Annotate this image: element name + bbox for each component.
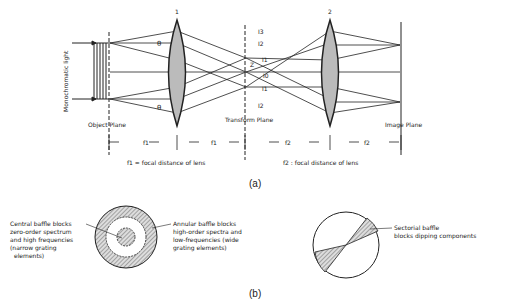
central-baffle-text: Central baffle blocks zero-order spectru… (10, 220, 73, 259)
lens-1-label: 1 (175, 8, 179, 15)
theta-top: θ (157, 40, 161, 48)
order-i1-bottom: I1 (262, 85, 268, 92)
order-i0: I0 (263, 72, 269, 79)
svg-text:blocks dipping components: blocks dipping components (394, 232, 476, 240)
object-plane-label: Object Plane (88, 121, 126, 129)
svg-text:low-frequencies (wide: low-frequencies (wide (173, 236, 239, 244)
distance-f2-b: f2 (364, 139, 370, 146)
order-i3: I3 (258, 28, 264, 35)
order-i2-top: I2 (258, 40, 264, 47)
transform-plane-label: Transform Plane (224, 116, 274, 123)
lens-1 (169, 20, 186, 126)
distance-f1-b: f1 (211, 139, 217, 146)
light-source (72, 41, 110, 101)
svg-text:zero-order spectrum: zero-order spectrum (10, 228, 72, 236)
svg-text:Annular baffle blocks: Annular baffle blocks (173, 220, 236, 227)
order-i1-top: I1 (262, 56, 268, 63)
sectorial-baffle-text: Sectorial baffle blocks dipping componen… (394, 224, 476, 240)
legend-f2: f2 : focal distance of lens (283, 159, 358, 166)
svg-text:Sectorial baffle: Sectorial baffle (394, 224, 439, 231)
source-label: Monochromatic light (62, 50, 70, 112)
legend-f1: f1 = focal distance of lens (127, 159, 205, 166)
svg-text:elements): elements) (14, 252, 44, 259)
annular-baffle-text: Annular baffle blocks high-order spectra… (173, 220, 242, 252)
theta-bottom: θ (157, 104, 161, 112)
lens-2-label: 2 (328, 8, 332, 15)
svg-text:and high frequencies: and high frequencies (10, 236, 73, 244)
order-z: Z (250, 61, 254, 68)
svg-text:(narrow grating: (narrow grating (10, 244, 57, 252)
light-rays (110, 31, 400, 113)
caption-b: (b) (249, 288, 261, 299)
svg-text:high-order spectra and: high-order spectra and (173, 228, 242, 236)
distance-f1-a: f1 (143, 139, 149, 146)
order-i2-bottom: I2 (258, 102, 264, 109)
annular-baffle-disc (95, 206, 157, 268)
sectorial-baffle-disc (313, 212, 379, 278)
caption-a: (a) (249, 178, 261, 189)
distance-f2-a: f2 (285, 139, 291, 146)
image-plane-label: Image Plane (385, 121, 422, 129)
fourier-optics-diagram: Monochromatic light Object Plane (0, 0, 505, 308)
svg-text:grating elements): grating elements) (173, 244, 227, 252)
svg-text:Central baffle blocks: Central baffle blocks (10, 220, 72, 227)
distance-markers (109, 135, 401, 150)
